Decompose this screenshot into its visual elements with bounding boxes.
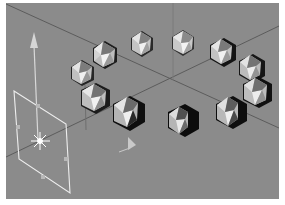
grid-lines bbox=[6, 3, 279, 157]
light-star-icon[interactable] bbox=[31, 132, 50, 150]
icosahedron[interactable] bbox=[243, 77, 272, 108]
icosahedron[interactable] bbox=[71, 60, 94, 86]
y-axis-arrow-icon[interactable] bbox=[30, 32, 38, 140]
viewport-scene bbox=[6, 3, 279, 199]
camera-target-icon[interactable] bbox=[119, 137, 136, 152]
icosahedron[interactable] bbox=[172, 30, 194, 56]
icosahedron[interactable] bbox=[168, 104, 199, 137]
icosahedron[interactable] bbox=[210, 38, 236, 67]
icosahedron-ring bbox=[71, 30, 272, 137]
icosahedron[interactable] bbox=[131, 31, 153, 57]
3d-viewport[interactable] bbox=[6, 3, 279, 199]
icosahedron[interactable] bbox=[113, 96, 145, 131]
